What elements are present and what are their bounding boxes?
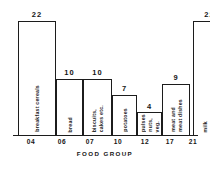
- bar-5-category-label: pulses nuts, veg.: [137, 113, 162, 132]
- bar-7-category-label: milk: [193, 108, 210, 132]
- bar-4-value-label: 7: [112, 85, 137, 93]
- bar-4-label-line-1: potatoes: [122, 108, 128, 132]
- bar-2-category-label: bread: [56, 98, 83, 132]
- bar-7-label-line-1: milk: [202, 121, 208, 132]
- bar-6-category-label: meat and meat dishes: [162, 95, 190, 132]
- bar-6-value-label: 9: [162, 74, 190, 82]
- bar-5-label-line-1: pulses: [140, 114, 146, 132]
- bar-4-category-label: potatoes: [112, 102, 137, 132]
- x-axis-title: FOOD GROUP: [0, 150, 210, 157]
- x-axis-line: [13, 135, 198, 136]
- x-tick-label-1: 04: [17, 138, 45, 146]
- bar-7-value-label: 22: [193, 11, 210, 19]
- x-tick-label-4: 10: [105, 138, 131, 146]
- bar-2-label-line-1: bread: [67, 117, 73, 132]
- x-tick-label-5: 12: [131, 138, 159, 146]
- bar-1-category-label: breakfast cereals: [18, 60, 56, 132]
- bar-3-label-line-2: cakes etc.: [98, 105, 104, 132]
- bar-1-label-line-1: breakfast cereals: [34, 85, 40, 132]
- x-tick-label-6: 17: [158, 138, 182, 146]
- plot-area: 22 breakfast cereals 10 bread 10 biscuit…: [0, 0, 210, 169]
- x-tick-label-2: 06: [48, 138, 76, 146]
- bar-1-value-label: 22: [18, 11, 56, 19]
- bar-5-label-line-3: veg.: [154, 121, 160, 132]
- bar-chart: 22 breakfast cereals 10 bread 10 biscuit…: [0, 0, 210, 169]
- bar-6-label-line-2: meat dishes: [177, 99, 183, 132]
- bar-3-category-label: biscuits, cakes etc.: [83, 88, 112, 132]
- x-tick-label-7: 21: [180, 138, 206, 146]
- bar-5-label-line-2: nuts,: [147, 118, 153, 132]
- bar-3-value-label: 10: [83, 69, 112, 77]
- bar-2-value-label: 10: [56, 69, 83, 77]
- bar-5-value-label: 4: [137, 103, 162, 111]
- bar-6-label-line-1: meat and: [170, 107, 176, 132]
- bar-3-label-line-1: biscuits,: [91, 109, 97, 132]
- x-tick-label-3: 07: [76, 138, 104, 146]
